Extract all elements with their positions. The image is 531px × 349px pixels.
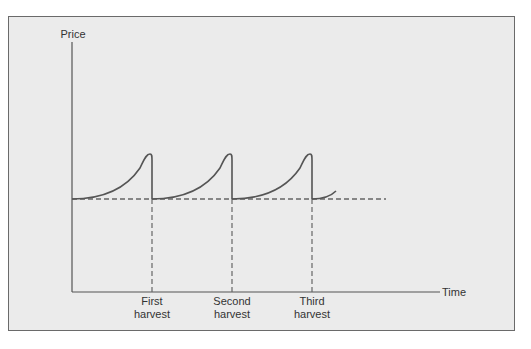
- harvest-label-line: harvest: [282, 308, 342, 321]
- harvest-label-line: harvest: [202, 308, 262, 321]
- price-curve: [72, 154, 336, 199]
- harvest-label-line: First: [122, 295, 182, 308]
- harvest-label-first: First harvest: [122, 295, 182, 321]
- x-axis-label: Time: [442, 286, 466, 299]
- harvest-label-line: Second: [202, 295, 262, 308]
- harvest-label-second: Second harvest: [202, 295, 262, 321]
- y-axis-label: Price: [60, 28, 86, 41]
- harvest-label-third: Third harvest: [282, 295, 342, 321]
- harvest-label-line: harvest: [122, 308, 182, 321]
- harvest-label-line: Third: [282, 295, 342, 308]
